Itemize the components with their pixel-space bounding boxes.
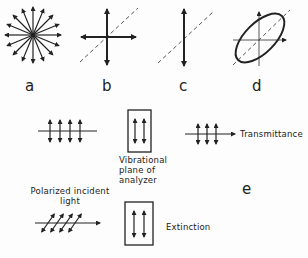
slanted-vibration-arrow <box>42 223 48 232</box>
radial-vibration-arrow <box>13 35 33 55</box>
slanted-vibration-arrow <box>75 214 81 223</box>
radial-vibration-arrow <box>33 15 53 35</box>
label-c: c <box>179 77 187 95</box>
label-b: b <box>102 77 112 95</box>
slanted-vibration-arrow <box>66 214 72 223</box>
dashed-diagonal-c <box>158 12 213 63</box>
panel-d-elliptical <box>227 5 292 70</box>
slanted-vibration-arrow <box>69 223 75 232</box>
label-e: e <box>242 180 251 198</box>
panel-b-cross <box>80 8 138 65</box>
analyzer-caption-line-2: plane of <box>119 165 167 175</box>
dashed-diagonal-b <box>80 8 138 62</box>
transmitted-wave <box>185 124 235 144</box>
panel-c-plane-polarized <box>158 9 213 66</box>
incident-caption-line-2: light <box>30 196 110 206</box>
analyzer-caption-line-1: Vibrational <box>119 155 167 165</box>
incident-caption-line-1: Polarized incident <box>30 186 110 196</box>
transmittance-label: Transmittance <box>240 129 303 139</box>
slanted-vibration-arrow <box>51 223 57 232</box>
radial-vibration-arrow <box>33 35 53 55</box>
extinction-label: Extinction <box>166 222 210 232</box>
polarization-diagram: a b c d Vibrational plane of analyzer Tr… <box>0 0 308 258</box>
incident-light-caption: Polarized incident light <box>30 186 110 206</box>
incident-wave-bottom <box>35 214 100 232</box>
analyzer-caption: Vibrational plane of analyzer <box>119 155 167 185</box>
polarization-ellipse <box>227 5 292 70</box>
analyzer-box-top <box>128 110 151 152</box>
label-d: d <box>252 77 262 95</box>
unpolarized-starburst <box>5 7 61 63</box>
analyzer-caption-line-3: analyzer <box>119 175 167 185</box>
slanted-vibration-arrow <box>48 214 54 223</box>
radial-vibration-arrow <box>13 15 33 35</box>
analyzer-box-bottom <box>125 202 153 245</box>
incident-wave-top <box>38 120 97 142</box>
label-a: a <box>25 77 34 95</box>
slanted-vibration-arrow <box>60 223 66 232</box>
slanted-vibration-arrow <box>57 214 63 223</box>
